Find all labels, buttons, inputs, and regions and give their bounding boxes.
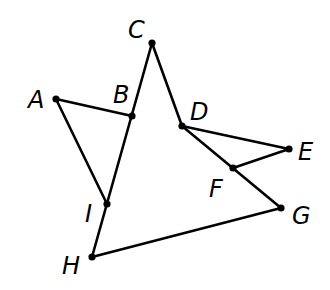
- point-I: [103, 200, 110, 207]
- label-I: I: [85, 200, 92, 228]
- segment-HC: [92, 43, 152, 257]
- point-B: [128, 112, 135, 119]
- segment-DE: [182, 126, 289, 149]
- segment-EF: [233, 149, 289, 168]
- segment-AI: [56, 99, 107, 204]
- point-A: [52, 95, 59, 102]
- label-G: G: [292, 202, 311, 230]
- label-E: E: [298, 138, 314, 166]
- label-D: D: [190, 98, 208, 126]
- segment-GH: [92, 208, 281, 257]
- label-C: C: [128, 16, 145, 44]
- point-D: [178, 122, 185, 129]
- point-F: [229, 164, 236, 171]
- segment-CD: [152, 43, 182, 126]
- label-F: F: [209, 175, 224, 203]
- point-C: [148, 39, 155, 46]
- label-A: A: [26, 86, 44, 114]
- point-E: [285, 145, 292, 152]
- point-H: [88, 253, 95, 260]
- geometry-diagram: A B C D E F G H I: [0, 0, 330, 290]
- labels-group: A B C D E F G H I: [26, 16, 314, 280]
- label-B: B: [113, 81, 129, 109]
- label-H: H: [62, 252, 80, 280]
- point-G: [277, 204, 284, 211]
